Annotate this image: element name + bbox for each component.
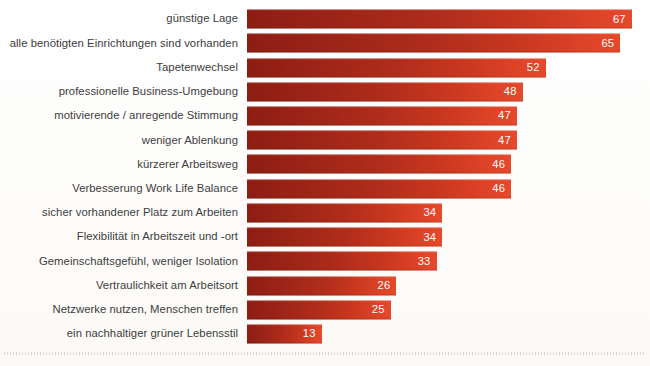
- bar-row: motivierende / anregende Stimmung47: [0, 104, 650, 128]
- bar-track: 65: [247, 34, 650, 53]
- bar-row: Gemeinschaftsgefühl, weniger Isolation33: [0, 249, 650, 273]
- category-label: Flexibilität in Arbeitszeit und -ort: [0, 231, 238, 242]
- category-label: motivierende / anregende Stimmung: [0, 110, 238, 121]
- category-label: weniger Ablenkung: [0, 135, 238, 146]
- bar: 47: [247, 131, 517, 150]
- bar-value-label: 48: [504, 86, 517, 97]
- bar-value-label: 67: [613, 14, 626, 25]
- bar: 48: [247, 82, 523, 101]
- bar-value-label: 33: [418, 256, 431, 267]
- bar-track: 13: [247, 324, 650, 343]
- bar: 34: [247, 203, 442, 222]
- bar-value-label: 13: [303, 328, 316, 339]
- bottom-dotted-rule: [4, 352, 646, 355]
- bar-track: 34: [247, 203, 650, 222]
- category-label: ein nachhaltiger grüner Lebensstil: [0, 328, 238, 339]
- bar: 33: [247, 252, 437, 271]
- bar: 67: [247, 10, 632, 29]
- bar-value-label: 47: [498, 135, 511, 146]
- category-label: Gemeinschaftsgefühl, weniger Isolation: [0, 256, 238, 267]
- bar-row: Tapetenwechsel52: [0, 55, 650, 79]
- category-label: kürzerer Arbeitsweg: [0, 159, 238, 170]
- category-label: professionelle Business-Umgebung: [0, 86, 238, 97]
- category-label: Vertraulichkeit am Arbeitsort: [0, 280, 238, 291]
- bar: 25: [247, 300, 391, 319]
- bar-value-label: 34: [423, 231, 436, 242]
- bar-row: Flexibilität in Arbeitszeit und -ort34: [0, 225, 650, 249]
- bar: 13: [247, 324, 322, 343]
- bar: 52: [247, 58, 546, 77]
- bar-row: günstige Lage67: [0, 7, 650, 31]
- bar-track: 33: [247, 252, 650, 271]
- category-label: Verbesserung Work Life Balance: [0, 183, 238, 194]
- bar-chart: günstige Lage67alle benötigten Einrichtu…: [0, 0, 650, 366]
- bar-value-label: 25: [372, 304, 385, 315]
- chart-plot-area: günstige Lage67alle benötigten Einrichtu…: [0, 0, 650, 346]
- bar-track: 46: [247, 155, 650, 174]
- bar: 47: [247, 106, 517, 125]
- bar-track: 52: [247, 58, 650, 77]
- bar-value-label: 52: [527, 62, 540, 73]
- bar-row: Netzwerke nutzen, Menschen treffen25: [0, 298, 650, 322]
- bar-value-label: 26: [377, 280, 390, 291]
- bar: 34: [247, 228, 442, 247]
- bar-row: ein nachhaltiger grüner Lebensstil13: [0, 322, 650, 346]
- bar-track: 25: [247, 300, 650, 319]
- bar-track: 34: [247, 228, 650, 247]
- bar-value-label: 65: [601, 38, 614, 49]
- bar-row: Verbesserung Work Life Balance46: [0, 177, 650, 201]
- bar: 26: [247, 276, 396, 295]
- bar: 46: [247, 155, 511, 174]
- bar-value-label: 46: [492, 159, 505, 170]
- bar-row: kürzerer Arbeitsweg46: [0, 152, 650, 176]
- bar-row: alle benötigten Einrichtungen sind vorha…: [0, 31, 650, 55]
- bar: 46: [247, 179, 511, 198]
- category-label: sicher vorhandener Platz zum Arbeiten: [0, 207, 238, 218]
- bar-track: 47: [247, 106, 650, 125]
- bar-value-label: 34: [423, 207, 436, 218]
- category-label: alle benötigten Einrichtungen sind vorha…: [0, 38, 238, 49]
- bar: 65: [247, 34, 620, 53]
- bar-row: professionelle Business-Umgebung48: [0, 80, 650, 104]
- bar-value-label: 46: [492, 183, 505, 194]
- category-label: Netzwerke nutzen, Menschen treffen: [0, 304, 238, 315]
- bar-track: 48: [247, 82, 650, 101]
- bar-track: 26: [247, 276, 650, 295]
- bar-value-label: 47: [498, 110, 511, 121]
- bar-row: Vertraulichkeit am Arbeitsort26: [0, 273, 650, 297]
- bar-row: weniger Ablenkung47: [0, 128, 650, 152]
- category-label: günstige Lage: [0, 13, 238, 24]
- bar-track: 46: [247, 179, 650, 198]
- category-label: Tapetenwechsel: [0, 62, 238, 73]
- bar-track: 47: [247, 131, 650, 150]
- bar-track: 67: [247, 10, 650, 29]
- bar-row: sicher vorhandener Platz zum Arbeiten34: [0, 201, 650, 225]
